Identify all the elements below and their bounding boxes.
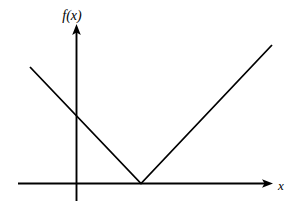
x-axis	[18, 179, 273, 188]
function-graph-figure: f(x) x	[0, 0, 292, 219]
function-curve	[30, 45, 272, 184]
x-axis-label: x	[277, 178, 284, 193]
absolute-value-polyline	[30, 45, 272, 184]
plot-canvas: f(x) x	[0, 0, 292, 219]
y-axis-label: f(x)	[62, 8, 82, 24]
